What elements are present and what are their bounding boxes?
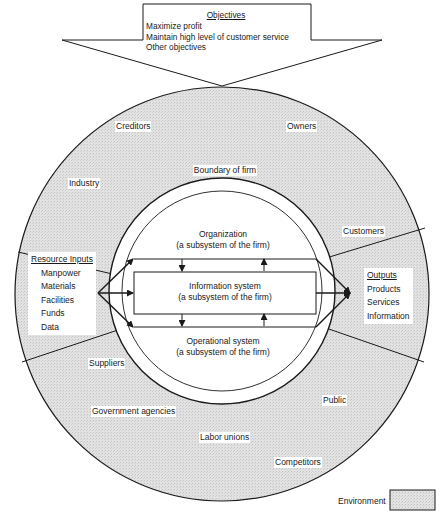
legend-environment-swatch bbox=[390, 490, 435, 510]
output-item: Products bbox=[367, 283, 410, 297]
resource-inputs-list: Resource Inputs Manpower Materials Facil… bbox=[28, 252, 96, 335]
entity-creditors: Creditors bbox=[115, 121, 151, 132]
entity-customers: Customers bbox=[342, 226, 385, 237]
information-system-sub: (a subsystem of the firm) bbox=[177, 292, 273, 303]
entity-labor-unions: Labor unions bbox=[199, 432, 250, 443]
legend-environment-label: Environment bbox=[338, 496, 386, 506]
objectives-title: Objectives bbox=[146, 10, 306, 21]
objectives-box: Objectives Maximize profit Maintain high… bbox=[146, 10, 306, 53]
output-item: Services bbox=[367, 296, 410, 310]
resource-inputs-title: Resource Inputs bbox=[31, 253, 93, 267]
entity-government-agencies: Government agencies bbox=[91, 406, 176, 417]
objective-item: Maximize profit bbox=[146, 21, 306, 32]
organization-sub: (a subsystem of the firm) bbox=[175, 240, 271, 251]
organization-name: Organization bbox=[198, 229, 248, 240]
output-item: Information bbox=[367, 310, 410, 324]
objective-item: Maintain high level of customer service bbox=[146, 32, 306, 43]
entity-public: Public bbox=[322, 395, 347, 406]
input-item: Data bbox=[31, 321, 93, 335]
firm-boundary-label: Boundary of firm bbox=[193, 165, 257, 176]
outputs-list: Outputs Products Services Information bbox=[364, 268, 413, 324]
entity-industry: Industry bbox=[68, 178, 100, 189]
objective-item: Other objectives bbox=[146, 42, 306, 53]
input-item: Materials bbox=[31, 280, 93, 294]
input-item: Manpower bbox=[31, 267, 93, 281]
input-item: Funds bbox=[31, 307, 93, 321]
entity-competitors: Competitors bbox=[274, 457, 322, 468]
operational-system-sub: (a subsystem of the firm) bbox=[175, 347, 271, 358]
input-item: Facilities bbox=[31, 294, 93, 308]
outputs-title: Outputs bbox=[367, 269, 410, 283]
information-system-name: Information system bbox=[188, 281, 262, 292]
operational-system-name: Operational system bbox=[185, 336, 260, 347]
entity-owners: Owners bbox=[286, 121, 317, 132]
entity-suppliers: Suppliers bbox=[88, 358, 125, 369]
